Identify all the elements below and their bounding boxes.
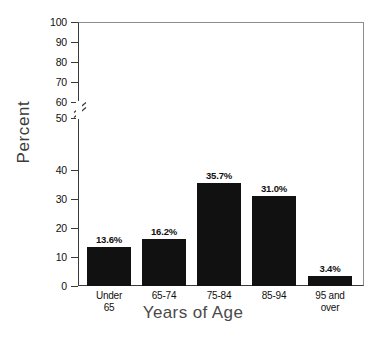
y-tick-label-90: 90	[56, 37, 67, 47]
y-tick-50	[71, 118, 78, 119]
x-axis-title: Years of Age	[0, 303, 386, 323]
bar-95-and-over	[308, 276, 352, 286]
bar-value-85-94: 31.0%	[252, 184, 296, 194]
y-tick-label-100: 100	[50, 17, 67, 27]
y-axis-title: Percent	[14, 82, 34, 182]
x-tick-label-line1: 75-84	[207, 290, 232, 301]
y-tick-label-70: 70	[56, 77, 67, 87]
y-tick-20	[71, 228, 78, 229]
x-tick-label-85-94: 85-94	[244, 290, 304, 302]
y-tick-10	[71, 257, 78, 258]
bar-85-94	[252, 196, 296, 286]
bar-under-65	[87, 247, 131, 286]
bar-value-75-84: 35.7%	[197, 171, 241, 181]
bar-75-84	[197, 183, 241, 287]
bar-value-95-and-over: 3.4%	[308, 264, 352, 274]
y-tick-80	[71, 62, 78, 63]
y-tick-60	[71, 102, 78, 103]
y-tick-70	[71, 82, 78, 83]
y-tick-label-80: 80	[56, 57, 67, 67]
y-tick-label-10: 10	[56, 252, 67, 262]
y-tick-0	[71, 286, 78, 287]
x-tick-label-line1: 95 and	[315, 290, 344, 301]
x-tick-label-65-74: 65-74	[134, 290, 194, 302]
bar-65-74	[142, 239, 186, 286]
y-tick-label-30: 30	[56, 194, 67, 204]
y-tick-40	[71, 170, 78, 171]
y-tick-label-0: 0	[61, 281, 67, 291]
x-tick-label-75-84: 75-84	[189, 290, 249, 302]
x-tick-label-line1: Under	[96, 290, 122, 301]
x-tick-label-line1: 85-94	[262, 290, 287, 301]
x-tick-label-line1: 65-74	[152, 290, 177, 301]
bar-chart: Percent 0 10 20 30 40 50 60 70 80 90 100…	[0, 0, 386, 339]
bar-value-under-65: 13.6%	[87, 235, 131, 245]
y-tick-100	[71, 22, 78, 23]
y-tick-label-40: 40	[56, 165, 67, 175]
y-tick-90	[71, 42, 78, 43]
y-tick-label-60: 60	[56, 97, 67, 107]
bar-value-65-74: 16.2%	[142, 227, 186, 237]
y-tick-label-50: 50	[56, 113, 67, 123]
y-tick-30	[71, 199, 78, 200]
y-tick-label-20: 20	[56, 223, 67, 233]
